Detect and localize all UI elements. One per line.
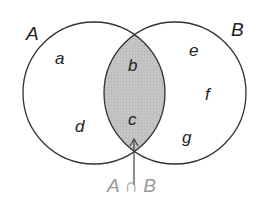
element-d: d	[75, 117, 85, 136]
element-b: b	[128, 56, 137, 75]
intersection-label: A ∩ B	[106, 175, 156, 196]
set-a-label: A	[25, 23, 39, 44]
intersection-region	[104, 22, 246, 164]
element-e: e	[189, 41, 198, 60]
set-b-label: B	[231, 19, 244, 40]
venn-diagram: A B a d b c e f g A ∩ B	[0, 0, 259, 204]
element-a: a	[55, 49, 64, 68]
element-g: g	[182, 128, 192, 147]
element-c: c	[128, 110, 137, 129]
element-f: f	[205, 85, 212, 104]
